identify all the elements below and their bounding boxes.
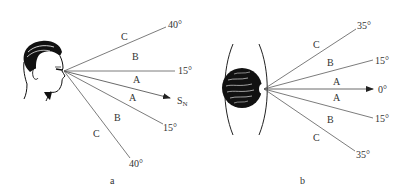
zone-label: A: [333, 92, 341, 103]
ray-40-upper: [64, 27, 166, 71]
visual-field-diagram: 40° 15° SN 15° 40° C B A A B C a: [0, 0, 405, 195]
angle-label: 40°: [168, 19, 182, 30]
angle-label: 15°: [375, 55, 389, 66]
zone-label: A: [333, 76, 341, 87]
panel-caption: a: [110, 175, 115, 186]
zone-label: B: [327, 114, 334, 125]
panel-a: 40° 15° SN 15° 40° C B A A B C a: [24, 19, 192, 186]
angle-label: 15°: [375, 113, 389, 124]
ray-35-lower: [264, 89, 355, 151]
eyeball-icon: [222, 68, 265, 108]
head-profile-icon: [24, 41, 65, 101]
zone-label: A: [133, 74, 141, 85]
ray-35-upper: [264, 29, 356, 89]
ray-sn-arrow: [64, 71, 170, 98]
zone-label: B: [114, 112, 121, 123]
angle-label: 35°: [356, 149, 370, 160]
zone-label: C: [313, 132, 320, 143]
angle-label: 15°: [163, 122, 177, 133]
angle-label-sn: SN: [177, 95, 188, 108]
zone-label: C: [93, 128, 100, 139]
zone-label: C: [313, 39, 320, 50]
zone-label: B: [327, 57, 334, 68]
panel-b: 35° 15° 0° 15° 35° C B A A B C b: [222, 20, 389, 186]
panel-caption: b: [300, 175, 305, 186]
zone-label: A: [129, 92, 137, 103]
zone-label: C: [121, 31, 128, 42]
angle-label: 40°: [129, 158, 143, 169]
ray-15-lower: [264, 89, 373, 118]
zone-label: B: [132, 51, 139, 62]
angle-label: 0°: [378, 84, 387, 95]
ray-15-upper: [264, 60, 373, 89]
angle-label: 35°: [357, 20, 371, 31]
angle-label: 15°: [178, 65, 192, 76]
